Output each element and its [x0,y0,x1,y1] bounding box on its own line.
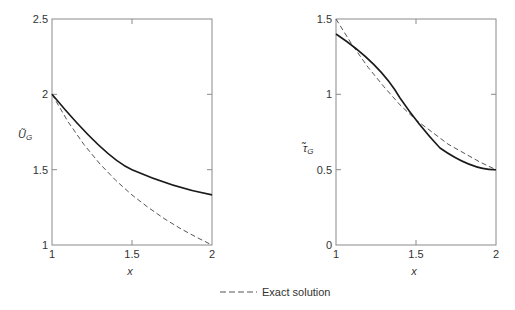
left-ytick-1: 1 [42,239,48,251]
right-ytick-1-5: 1.5 [317,13,332,25]
left-solid-curve [52,94,212,195]
left-ticks [52,19,212,245]
right-xtick-1: 1 [333,248,339,260]
right-xtick-1-5: 1.5 [408,248,423,260]
left-ylabel: ŨG [18,128,32,142]
right-ytick-1: 1 [326,88,332,100]
right-solid-curve [336,34,496,170]
right-ytick-0-5: 0.5 [317,164,332,176]
right-ylabel: τ̃G [301,142,313,156]
right-xtick-2: 2 [493,248,499,260]
right-ytick-0: 0 [326,239,332,251]
legend-label: Exact solution [262,286,330,298]
left-plot-frame [52,19,212,245]
figure: 2.5 2 1.5 1 1 1.5 2 x ŨG 1.5 1 0.5 0 1 1… [0,0,515,310]
right-xlabel: x [410,265,417,277]
left-ytick-2-5: 2.5 [33,13,48,25]
legend: Exact solution [220,286,330,298]
left-plot: 2.5 2 1.5 1 1 1.5 2 x ŨG [18,13,215,277]
right-plot: 1.5 1 0.5 0 1 1.5 2 x τ̃G [301,13,499,277]
left-xtick-2: 2 [209,248,215,260]
left-ytick-2: 2 [42,88,48,100]
left-xlabel: x [126,265,133,277]
right-dashed-curve [336,19,496,170]
left-xtick-1-5: 1.5 [124,248,139,260]
left-ytick-1-5: 1.5 [33,164,48,176]
left-xtick-1: 1 [49,248,55,260]
